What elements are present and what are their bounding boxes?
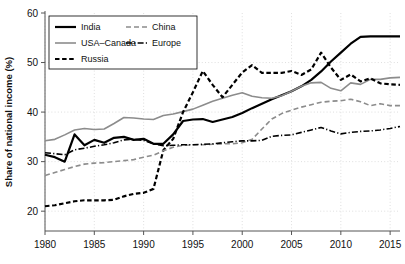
line-chart: 2030405060198019851990199520002005201020… — [0, 0, 405, 264]
y-axis-tick-label: 60 — [27, 8, 39, 19]
y-axis-label: Share of national income (%) — [3, 57, 14, 187]
x-axis-tick-label: 1990 — [132, 239, 155, 250]
y-axis-tick-label: 40 — [27, 107, 39, 118]
series-line-china — [45, 99, 400, 175]
y-axis-tick-label: 20 — [27, 206, 39, 217]
legend-label-europe: Europe — [152, 38, 181, 48]
legend-label-russia: Russia — [81, 54, 109, 64]
x-axis-tick-label: 2015 — [379, 239, 402, 250]
x-axis-tick-label: 2010 — [330, 239, 353, 250]
x-axis-tick-label: 1985 — [83, 239, 106, 250]
y-axis-tick-label: 30 — [27, 156, 39, 167]
x-axis-tick-label: 2000 — [231, 239, 254, 250]
chart-container: 2030405060198019851990199520002005201020… — [0, 0, 405, 264]
series-line-usa-canada — [45, 77, 400, 140]
legend-label-china: China — [152, 22, 176, 32]
x-axis-tick-label: 1980 — [34, 239, 57, 250]
legend-label-india: India — [81, 22, 101, 32]
x-axis-tick-label: 2005 — [280, 239, 303, 250]
y-axis-tick-label: 50 — [27, 57, 39, 68]
x-axis-tick-label: 1995 — [182, 239, 205, 250]
